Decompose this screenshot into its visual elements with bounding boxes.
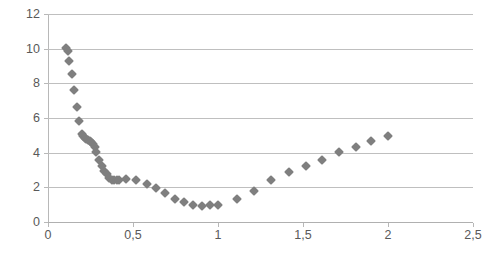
x-tick-mark [473,223,474,227]
y-tick-label: 2 [0,181,40,194]
x-tick-mark [48,223,49,227]
data-point-marker [266,175,276,185]
data-point-marker [131,175,141,185]
data-point-marker [334,147,344,157]
data-point-marker [301,161,311,171]
y-tick-label: 12 [0,8,40,21]
x-tick-label: 1,5 [283,229,323,242]
plot-area [48,14,473,222]
y-tick-label: 8 [0,77,40,90]
x-tick-label: 1 [198,229,238,242]
x-tick-mark [388,223,389,227]
data-point-marker [284,167,294,177]
data-point-marker [317,155,327,165]
y-tick-label: 6 [0,112,40,125]
y-tick-label: 4 [0,147,40,160]
data-point-marker [366,136,376,146]
data-point-marker [179,197,189,207]
data-point-marker [213,200,223,210]
y-tick-label: 0 [0,216,40,229]
data-point-marker [64,56,74,66]
x-tick-label: 0,5 [113,229,153,242]
data-point-marker [69,85,79,95]
data-point-marker [74,117,84,127]
data-point-marker [151,183,161,193]
data-point-marker [383,131,393,141]
y-tick-label: 10 [0,43,40,56]
data-point-marker [67,69,77,79]
data-point-marker [351,142,361,152]
data-point-marker [72,102,82,112]
x-tick-mark [218,223,219,227]
data-point-marker [232,194,242,204]
x-tick-mark [303,223,304,227]
data-point-marker [170,194,180,204]
scatter-chart: 024681012 00,511,522,5 [0,0,493,256]
x-tick-label: 2,5 [453,229,493,242]
x-tick-label: 0 [28,229,68,242]
x-tick-label: 2 [368,229,408,242]
gridline-y [48,222,473,223]
data-point-marker [160,188,170,198]
data-point-marker [121,174,131,184]
x-tick-mark [133,223,134,227]
data-point-marker [249,186,259,196]
